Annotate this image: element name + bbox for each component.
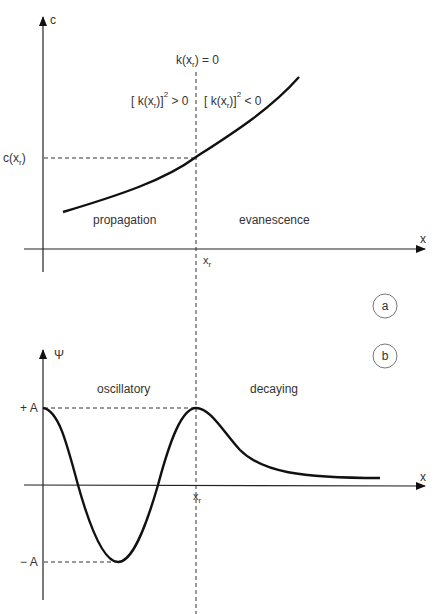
badge-a-label: a	[382, 299, 389, 313]
region-propagation-label: propagation	[93, 213, 156, 227]
plus-a-label: + A	[20, 401, 38, 415]
badge-b: b	[373, 344, 397, 368]
panel-a-c-xr-label: c(xr)	[3, 151, 26, 167]
badge-b-label: b	[382, 349, 389, 363]
panel-a-y-axis-label: c	[50, 13, 56, 27]
region-evanescence-label: evanescence	[239, 213, 310, 227]
panel-a-xr-label: xr	[203, 254, 212, 269]
panel-b-x-axis-label: x	[420, 470, 426, 484]
panel-b-x-axis	[24, 485, 425, 486]
k-zero-label: k(xr) = 0	[176, 53, 219, 69]
minus-a-label: − A	[20, 555, 38, 569]
panel-b-xr-label: xr	[193, 490, 202, 505]
panel-b-y-axis-label: Ψ	[54, 348, 64, 362]
k-squared-negative-label: [ k(xr)]2 < 0	[204, 90, 262, 110]
region-decaying-label: decaying	[250, 382, 298, 396]
panel-a-x-axis-label: x	[420, 232, 426, 246]
region-oscillatory-label: oscillatory	[97, 382, 150, 396]
wave-diagram: c x c(xr) k(xr) = 0 [ k(xr)]2 > 0 [ k(xr…	[0, 0, 441, 614]
panel-b: Ψ x + A − A oscillatory decaying xr	[20, 348, 426, 600]
panel-a: c x c(xr) k(xr) = 0 [ k(xr)]2 > 0 [ k(xr…	[3, 13, 426, 614]
k-squared-positive-label: [ k(xr)]2 > 0	[131, 90, 189, 110]
badge-a: a	[373, 294, 397, 318]
